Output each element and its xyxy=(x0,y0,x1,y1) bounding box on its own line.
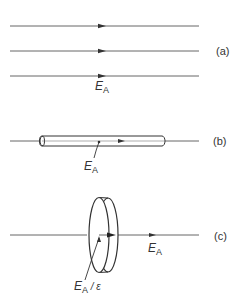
rod xyxy=(40,136,166,146)
field-label-a: EA xyxy=(95,79,109,95)
arrowhead-icon xyxy=(98,49,106,53)
inside-field-label-c: EA / ε xyxy=(74,279,101,295)
panel-c: EA / ε EA (c) xyxy=(10,198,227,296)
arrowhead-icon xyxy=(98,24,106,28)
field-label-b: EA xyxy=(84,159,98,175)
figure-canvas: EA (a) EA (b) xyxy=(0,0,242,297)
arrowhead-icon xyxy=(149,233,156,237)
field-line xyxy=(10,24,199,28)
field-line xyxy=(10,74,199,78)
panel-label-b: (b) xyxy=(213,135,226,147)
panel-b: EA (b) xyxy=(10,135,226,175)
arrowhead-icon xyxy=(98,74,106,78)
disk xyxy=(89,198,118,273)
field-line xyxy=(10,49,199,53)
field-label-c: EA xyxy=(148,241,162,257)
panel-label-c: (c) xyxy=(214,230,227,242)
panel-label-a: (a) xyxy=(216,45,229,57)
pointer-dot xyxy=(98,141,101,144)
panel-a: EA (a) xyxy=(10,24,229,95)
